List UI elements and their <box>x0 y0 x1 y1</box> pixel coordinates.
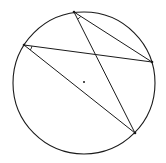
center-dot <box>83 81 85 83</box>
angle-arc-a <box>78 16 81 19</box>
angle-arc-b <box>30 46 32 50</box>
point-a <box>73 11 76 14</box>
chord-b-c <box>24 45 152 62</box>
chord-a-c <box>74 12 152 62</box>
inscribed-angles-diagram <box>0 0 166 163</box>
point-b <box>23 44 26 47</box>
point-d <box>134 132 137 135</box>
point-c <box>151 61 154 64</box>
chord-a-d <box>74 12 135 133</box>
chord-b-d <box>24 45 135 133</box>
